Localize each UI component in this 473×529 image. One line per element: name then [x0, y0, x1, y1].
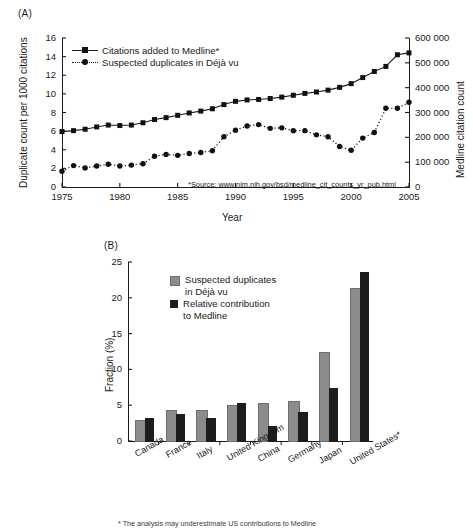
panel-a-marker-1-15: [233, 127, 238, 132]
panel-a-marker-0-3: [94, 124, 99, 129]
panel-a-marker-1-12: [198, 150, 203, 155]
panel-b-footnote: * The analysis may underestimate US cont…: [118, 519, 316, 528]
panel-a-marker-1-30: [406, 100, 411, 105]
panel-b-label: (B): [104, 240, 118, 251]
panel-b-category-label-6: Japan: [317, 445, 343, 466]
panel-a-marker-0-2: [83, 127, 88, 132]
panel-b-bar-5-1: [298, 412, 307, 442]
panel-a-marker-1-21: [302, 128, 307, 133]
panel-a-marker-1-11: [187, 151, 192, 156]
panel-b-category-label-4: China: [256, 443, 281, 463]
panel-a-marker-1-6: [129, 162, 134, 167]
panel-a-legend-label-0: Citations added to Medline*: [102, 45, 219, 56]
panel-a-marker-1-20: [291, 128, 296, 133]
dotted-circle-line-icon: [72, 57, 98, 67]
panel-b-bar-6-1: [329, 388, 338, 442]
panel-a-marker-1-9: [163, 152, 168, 157]
panel-a-marker-1-2: [82, 165, 87, 170]
black-swatch-icon: [170, 300, 178, 308]
panel-b-legend-label-1-line2: to Medline: [183, 310, 227, 321]
panel-a-marker-1-29: [395, 106, 400, 111]
panel-b-legend-label-0: Suspected duplicates in Déjà vu: [185, 274, 276, 297]
panel-a-marker-1-26: [360, 135, 365, 140]
panel-a-marker-1-10: [175, 153, 180, 158]
panel-a-marker-0-17: [256, 97, 261, 102]
gray-swatch-icon: [170, 276, 180, 286]
panel-a-marker-1-7: [140, 161, 145, 166]
panel-a-marker-0-29: [395, 52, 400, 57]
panel-b-legend: Suspected duplicates in Déjà vu Relative…: [170, 274, 276, 321]
panel-a-marker-1-28: [383, 106, 388, 111]
panel-a-marker-1-0: [59, 168, 64, 173]
panel-a-marker-1-18: [268, 126, 273, 131]
panel-a-marker-0-4: [106, 123, 111, 128]
panel-a-x-axis-title: Year: [222, 212, 242, 223]
panel-a: (A) Duplicate count per 1000 citations M…: [0, 0, 473, 232]
panel-a-marker-1-3: [94, 163, 99, 168]
panel-a-y-axis-left-title: Duplicate count per 1000 citations: [18, 37, 29, 188]
panel-a-marker-1-17: [256, 122, 261, 127]
panel-a-marker-0-13: [210, 106, 215, 111]
panel-a-marker-0-30: [407, 50, 412, 55]
panel-a-marker-0-28: [383, 64, 388, 69]
panel-a-marker-1-4: [106, 161, 111, 166]
panel-b-y-axis-title: Fraction (%): [104, 338, 115, 392]
panel-a-marker-0-7: [140, 120, 145, 125]
panel-a-legend-item-citations: Citations added to Medline*: [72, 44, 239, 56]
panel-a-series-line-1: [62, 102, 409, 171]
panel-b-bar-1-1: [176, 414, 185, 442]
panel-a-marker-1-13: [210, 148, 215, 153]
panel-b-bar-7-1: [360, 272, 369, 442]
panel-a-marker-0-14: [221, 102, 226, 107]
panel-b-legend-label-0-line1: Suspected duplicates: [185, 274, 276, 285]
panel-a-marker-1-25: [348, 148, 353, 153]
panel-b-bar-3-1: [237, 403, 246, 442]
panel-a-marker-1-23: [325, 134, 330, 139]
panel-a-marker-0-18: [268, 96, 273, 101]
panel-a-marker-1-8: [152, 154, 157, 159]
panel-b-category-labels: CanadaFranceItalyUnited KingdomChinaGerm…: [128, 444, 418, 514]
panel-a-marker-0-16: [245, 97, 250, 102]
panel-a-marker-1-1: [71, 163, 76, 168]
panel-b-legend-item-duplicates: Suspected duplicates in Déjà vu: [170, 274, 276, 297]
panel-a-source-note: *Source: www.nlm.nih.gov/bsd/medline_cit…: [188, 180, 396, 189]
panel-b: (B) Fraction (%) CanadaFranceItalyUnited…: [0, 232, 473, 529]
panel-a-legend-item-duplicates: Suspected duplicates in Déjà vu: [72, 56, 239, 68]
panel-a-marker-0-23: [326, 88, 331, 93]
panel-b-legend-label-1-line1: Relative contribution: [183, 298, 270, 309]
panel-a-legend: Citations added to Medline* Suspected du…: [72, 44, 239, 68]
panel-a-marker-1-19: [279, 125, 284, 130]
panel-a-marker-0-10: [175, 113, 180, 118]
panel-a-marker-0-0: [60, 129, 65, 134]
panel-a-marker-1-22: [314, 132, 319, 137]
panel-a-marker-0-26: [360, 75, 365, 80]
panel-a-label: (A): [18, 8, 32, 19]
panel-a-marker-0-21: [302, 91, 307, 96]
panel-a-marker-0-11: [187, 110, 192, 115]
panel-b-category-label-2: Italy: [195, 444, 214, 461]
panel-a-marker-0-6: [129, 123, 134, 128]
panel-a-marker-0-9: [164, 115, 169, 120]
panel-a-marker-1-14: [221, 134, 226, 139]
panel-a-marker-1-24: [337, 144, 342, 149]
solid-square-line-icon: [72, 45, 98, 55]
panel-a-marker-0-20: [291, 93, 296, 98]
panel-b-legend-label-1: Relative contribution to Medline: [183, 298, 270, 321]
panel-a-marker-0-24: [337, 85, 342, 90]
panel-a-marker-0-5: [117, 123, 122, 128]
panel-a-marker-1-16: [244, 123, 249, 128]
panel-a-marker-0-1: [71, 128, 76, 133]
panel-a-marker-1-5: [117, 163, 122, 168]
panel-b-bar-2-1: [206, 418, 215, 442]
panel-a-marker-0-15: [233, 99, 238, 104]
panel-b-legend-label-0-line2: in Déjà vu: [185, 286, 228, 297]
panel-a-marker-0-25: [349, 81, 354, 86]
panel-a-marker-1-27: [372, 130, 377, 135]
panel-a-marker-0-27: [372, 69, 377, 74]
panel-b-legend-item-contribution: Relative contribution to Medline: [170, 298, 276, 321]
panel-a-y-axis-right-title: Medline citation count: [455, 81, 466, 178]
panel-a-marker-0-12: [198, 109, 203, 114]
panel-a-marker-0-22: [314, 90, 319, 95]
panel-a-marker-0-8: [152, 117, 157, 122]
panel-a-marker-0-19: [279, 95, 284, 100]
